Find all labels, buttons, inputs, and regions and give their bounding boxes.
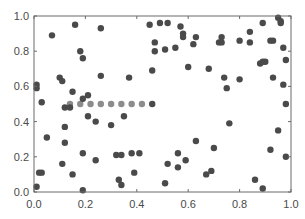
data-point <box>92 118 98 124</box>
data-point <box>221 74 227 80</box>
data-point <box>149 101 155 107</box>
data-point <box>62 124 68 130</box>
data-point <box>152 39 158 45</box>
data-point <box>98 73 104 79</box>
data-point <box>98 25 104 31</box>
data-point <box>175 164 181 170</box>
data-point <box>128 150 134 156</box>
y-tick-label: 0.2 <box>14 151 29 163</box>
data-point <box>92 157 98 163</box>
data-point <box>152 48 158 54</box>
data-point <box>270 37 276 43</box>
data-point <box>149 67 155 73</box>
data-point <box>172 44 178 50</box>
data-point <box>252 176 258 182</box>
data-point <box>203 171 209 177</box>
data-point <box>121 113 127 119</box>
data-point <box>98 101 104 107</box>
data-point <box>59 161 65 167</box>
data-point <box>262 59 268 65</box>
data-point <box>164 161 170 167</box>
x-tick-label: 1.0 <box>283 198 298 210</box>
data-point <box>157 20 163 26</box>
data-point <box>136 150 142 156</box>
data-point <box>164 20 170 26</box>
y-tick-label: 0.6 <box>14 80 29 92</box>
data-point <box>280 81 286 87</box>
data-point <box>260 185 266 191</box>
plot-points <box>33 15 289 194</box>
data-point <box>146 22 152 28</box>
data-point <box>118 101 124 107</box>
data-point <box>270 74 276 80</box>
x-tick-label: 0.4 <box>129 198 144 210</box>
data-point <box>39 99 45 105</box>
data-point <box>139 101 145 107</box>
data-point <box>118 152 124 158</box>
data-point <box>218 39 224 45</box>
data-point <box>267 147 273 153</box>
x-tick-label: 0.2 <box>78 198 93 210</box>
data-point <box>87 101 93 107</box>
data-point <box>236 37 242 43</box>
data-point <box>162 46 168 52</box>
data-point <box>126 74 132 80</box>
data-point <box>180 34 186 40</box>
y-tick-label: 0.4 <box>14 116 29 128</box>
data-point <box>118 182 124 188</box>
data-point <box>185 64 191 70</box>
data-point <box>206 66 212 72</box>
data-point <box>193 34 199 40</box>
data-point <box>67 104 73 110</box>
data-point <box>190 41 196 47</box>
data-point <box>226 120 232 126</box>
data-point <box>62 140 68 146</box>
data-point <box>44 134 50 140</box>
data-point <box>80 96 86 102</box>
data-point <box>39 169 45 175</box>
data-point <box>80 150 86 156</box>
scatter-plot: 0.00.20.40.60.81.0 0.00.20.40.60.81.0 <box>0 0 305 219</box>
data-point <box>280 44 286 50</box>
data-point <box>77 48 83 54</box>
data-point <box>162 180 168 186</box>
data-point <box>260 20 266 26</box>
data-point <box>175 150 181 156</box>
data-point <box>283 57 289 63</box>
data-point <box>247 29 253 35</box>
x-tick-label: 0.6 <box>181 198 196 210</box>
data-point <box>177 23 183 29</box>
data-point <box>278 20 284 26</box>
y-tick-label: 1.0 <box>14 10 29 22</box>
y-tick-labels: 0.00.20.40.60.81.0 <box>14 10 29 198</box>
x-tick-label: 0.8 <box>232 198 247 210</box>
data-point <box>131 169 137 175</box>
y-tick-label: 0.8 <box>14 45 29 57</box>
data-point <box>108 122 114 128</box>
y-tick-label: 0.0 <box>14 186 29 198</box>
data-point <box>128 101 134 107</box>
data-point <box>247 39 253 45</box>
data-point <box>275 127 281 133</box>
data-point <box>211 145 217 151</box>
data-point <box>85 113 91 119</box>
data-point <box>182 157 188 163</box>
data-point <box>224 85 230 91</box>
data-point <box>72 22 78 28</box>
data-point <box>108 101 114 107</box>
data-point <box>69 171 75 177</box>
data-point <box>80 55 86 61</box>
data-point <box>49 32 55 38</box>
data-point <box>69 88 75 94</box>
x-tick-label: 0.0 <box>26 198 41 210</box>
data-point <box>59 78 65 84</box>
x-tick-labels: 0.00.20.40.60.81.0 <box>26 198 298 210</box>
data-point <box>193 138 199 144</box>
data-point <box>236 76 242 82</box>
data-point <box>283 101 289 107</box>
